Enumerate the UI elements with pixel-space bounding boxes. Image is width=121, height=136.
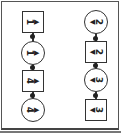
node-left-square-1: 1▶ [22,11,44,33]
node-label: 3 [94,77,104,83]
node-right-square-2: ◀2 [85,41,107,63]
node-right-square-3: ◀3 [85,99,107,121]
node-label: 4 [25,107,35,113]
connector-dot [30,34,35,39]
node-right-circle-2: ◀2 [84,10,108,34]
node-label: 1 [25,19,35,25]
node-right-circle-3: ◀3 [84,68,108,92]
node-left-circle-4: 4▶ [21,98,45,122]
node-label: 4 [25,78,35,84]
bottom-divider [0,131,121,133]
node-label: 1 [25,50,35,56]
node-left-square-4: 4▶ [22,70,44,92]
node-label: 2 [94,19,104,25]
connector-dot [93,93,98,98]
node-label: 2 [94,49,104,55]
node-label: 3 [94,107,104,113]
node-left-circle-1: 1▶ [21,41,45,65]
